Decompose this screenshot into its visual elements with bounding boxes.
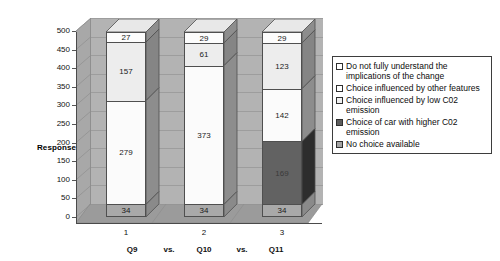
bar-segment-value: 169 xyxy=(275,169,288,178)
bar-segment-value: 34 xyxy=(122,206,131,215)
bar-side-face xyxy=(302,32,315,217)
chart-legend: Do not fully understand the implications… xyxy=(332,56,492,154)
y-axis-line xyxy=(76,32,77,223)
bar-segment-value: 157 xyxy=(119,67,132,76)
legend-swatch-icon xyxy=(336,85,343,92)
bar-segment[interactable]: 27 xyxy=(106,32,146,42)
bar-side-face xyxy=(146,32,159,217)
y-tick-label: 200 xyxy=(44,139,70,147)
x-tick-label: 2 xyxy=(184,228,224,237)
legend-item[interactable]: Do not fully understand the implications… xyxy=(336,61,487,81)
bar-segment-value: 29 xyxy=(200,34,209,43)
bar-top-face xyxy=(262,19,315,32)
bar-segment-value: 61 xyxy=(200,50,209,59)
bar-segment[interactable]: 279 xyxy=(106,101,146,205)
bar-column[interactable]: 296137334 xyxy=(184,32,224,217)
bar-segment[interactable]: 34 xyxy=(106,204,146,217)
y-tick-label: 350 xyxy=(44,83,70,91)
y-tick-label: 0 xyxy=(44,213,70,221)
bar-segment[interactable]: 29 xyxy=(184,32,224,43)
legend-item[interactable]: No choice available xyxy=(336,139,487,149)
bar-segment-value: 29 xyxy=(278,34,287,43)
bar-side-face xyxy=(224,32,237,217)
bar-segment[interactable]: 373 xyxy=(184,66,224,205)
bar-segment-value: 142 xyxy=(275,111,288,120)
y-tick-label: 50 xyxy=(44,194,70,202)
bar-segment-value: 373 xyxy=(197,131,210,140)
legend-swatch-icon xyxy=(336,119,343,126)
y-tick-label: 500 xyxy=(44,27,70,35)
x-category-token: Q9 xyxy=(118,245,146,254)
y-tick-label: 150 xyxy=(44,157,70,165)
legend-items: Do not fully understand the implications… xyxy=(336,61,487,149)
bar-segment-value: 34 xyxy=(200,206,209,215)
y-tick-label: 250 xyxy=(44,120,70,128)
bar-segment[interactable]: 61 xyxy=(184,43,224,66)
y-tick-label: 300 xyxy=(44,101,70,109)
bar-segment-value: 123 xyxy=(275,62,288,71)
bar-segment[interactable]: 169 xyxy=(262,141,302,204)
bar-segment[interactable]: 123 xyxy=(262,43,302,89)
bar-column[interactable]: 2715727934 xyxy=(106,32,146,217)
legend-item[interactable]: Choice influenced by other features xyxy=(336,83,487,93)
x-tick-label: 1 xyxy=(106,228,146,237)
legend-item[interactable]: Choice of car with higher C02 emission xyxy=(336,117,487,137)
bar-segment[interactable]: 34 xyxy=(184,204,224,217)
legend-swatch-icon xyxy=(336,141,343,148)
bar-top-face xyxy=(184,19,237,32)
plot-area: 27157279342961373342912314216934 xyxy=(76,18,322,223)
bar-segment[interactable]: 34 xyxy=(262,204,302,217)
bar-top-face xyxy=(106,19,159,32)
y-tick-label: 100 xyxy=(44,176,70,184)
bar-segment-value: 279 xyxy=(119,148,132,157)
bar-segment[interactable]: 142 xyxy=(262,89,302,142)
bar-segment[interactable]: 29 xyxy=(262,32,302,43)
y-tick-label: 450 xyxy=(44,46,70,54)
legend-swatch-icon xyxy=(336,63,343,70)
x-category-token: Q10 xyxy=(190,245,218,254)
x-category-token: vs. xyxy=(228,245,256,254)
legend-label: Choice influenced by other features xyxy=(346,83,480,93)
x-axis-line xyxy=(76,223,322,224)
legend-label: Choice influenced by low C02 emission xyxy=(346,95,487,115)
x-category-token: Q11 xyxy=(262,245,290,254)
legend-item[interactable]: Choice influenced by low C02 emission xyxy=(336,95,487,115)
legend-label: No choice available xyxy=(346,139,420,149)
legend-label: Choice of car with higher C02 emission xyxy=(346,117,487,137)
x-tick-label: 3 xyxy=(262,228,302,237)
x-category-token: vs. xyxy=(155,245,183,254)
legend-label: Do not fully understand the implications… xyxy=(346,61,487,81)
bar-segment-value: 27 xyxy=(122,33,131,42)
bar-segment-value: 34 xyxy=(278,206,287,215)
side-wall-gridlines xyxy=(76,18,91,223)
legend-swatch-icon xyxy=(336,97,343,104)
chart-container: Response 500450400350300250200150100500 … xyxy=(0,0,500,261)
bar-segment[interactable]: 157 xyxy=(106,42,146,100)
y-tick-label: 400 xyxy=(44,64,70,72)
bar-column[interactable]: 2912314216934 xyxy=(262,32,302,217)
